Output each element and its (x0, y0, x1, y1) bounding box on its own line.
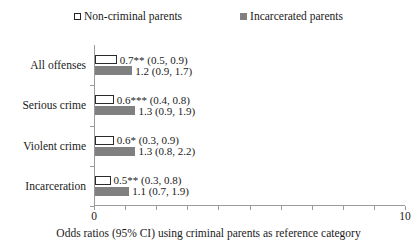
category-label: Serious crime (22, 99, 86, 112)
y-axis-tick (90, 206, 94, 207)
bar-filled (95, 66, 132, 75)
bar-value-label: 1.3 (0.8, 2.2) (138, 146, 195, 157)
bar-open (95, 136, 114, 145)
x-axis-tick-label: 0 (91, 210, 97, 223)
y-axis-tick (90, 166, 94, 167)
x-axis-tick (156, 206, 157, 210)
bar-value-label: 1.2 (0.9, 1.7) (135, 65, 192, 76)
bar-open (95, 55, 117, 64)
x-axis-tick (187, 206, 188, 210)
x-axis-tick (125, 206, 126, 210)
y-axis-tick (90, 85, 94, 86)
x-axis-tick (312, 206, 313, 210)
bar-open (95, 176, 111, 185)
bar-value-label: 1.3 (0.9, 1.9) (138, 105, 195, 116)
x-axis-tick (343, 206, 344, 210)
x-axis-tick (250, 206, 251, 210)
x-axis-tick-label: 10 (399, 210, 411, 223)
x-axis-tick (281, 206, 282, 210)
x-axis-tick (218, 206, 219, 210)
category-label: All offenses (30, 59, 86, 72)
bar-open (95, 95, 114, 104)
bar-filled (95, 106, 135, 115)
category-label: Incarceration (25, 179, 86, 192)
x-axis-caption: Odds ratios (95% CI) using criminal pare… (0, 226, 417, 240)
bar-value-label: 1.1 (0.7, 1.9) (132, 186, 189, 197)
bar-filled (95, 187, 129, 196)
bar-chart-plot-area: 010 All offensesSerious crimeViolent cri… (0, 0, 417, 245)
x-axis-tick (374, 206, 375, 210)
category-label: Violent crime (23, 139, 86, 152)
y-axis-tick (90, 126, 94, 127)
bar-filled (95, 147, 135, 156)
